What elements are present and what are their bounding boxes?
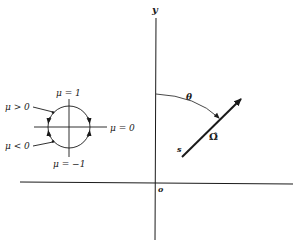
x-axis [20, 182, 293, 184]
omega-hat-label: Ω̂ [209, 131, 218, 142]
diagram-svg: y o θ s Ω̂ μ = 1 μ = −1 μ = 0 [0, 0, 299, 247]
diagram-canvas: y o θ s Ω̂ μ = 1 μ = −1 μ = 0 [0, 0, 299, 247]
mu-bottom-label: μ = −1 [53, 159, 85, 169]
mu-right-label: μ = 0 [110, 123, 135, 133]
y-axis-label: y [151, 4, 159, 15]
leader-dot-mu-negative [52, 140, 55, 143]
mu-top-label: μ = 1 [56, 88, 81, 98]
arrow-upper-left-icon [48, 117, 50, 123]
main-axes [20, 18, 293, 240]
leader-mu-negative [33, 142, 53, 146]
leader-mu-positive [33, 107, 53, 112]
mu-negative-label: μ < 0 [5, 141, 30, 151]
y-axis [155, 18, 156, 240]
arrow-upper-right-icon [88, 117, 90, 123]
arrow-lower-left-icon [48, 131, 50, 137]
origin-label: o [158, 184, 164, 194]
mu-circle-diagram: μ = 1 μ = −1 μ = 0 μ > 0 μ < 0 [5, 88, 135, 169]
direction-vector [182, 99, 241, 157]
theta-label: θ [186, 92, 192, 102]
mu-positive-label: μ > 0 [5, 102, 30, 112]
leader-dot-mu-positive [52, 111, 55, 114]
start-point-label: s [177, 144, 182, 154]
arrow-lower-right-icon [88, 131, 90, 137]
